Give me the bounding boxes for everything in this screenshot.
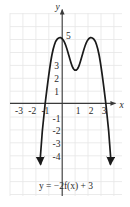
y-tick-label: -3 bbox=[53, 139, 61, 149]
y-tick-label: 2 bbox=[54, 74, 59, 84]
x-tick-label: -2 bbox=[28, 106, 36, 116]
y-axis-label: y bbox=[55, 2, 61, 12]
y-tick-labels-negative: -1 -2 -3 -4 bbox=[53, 114, 61, 163]
x-tick-label: 2 bbox=[89, 106, 94, 116]
y-tick-label: 3 bbox=[54, 61, 59, 71]
y-tick-label: 1 bbox=[54, 87, 59, 97]
x-axis-label: x bbox=[119, 100, 125, 110]
axis-lines bbox=[10, 10, 116, 197]
y-tick-label: -2 bbox=[53, 126, 61, 136]
x-tick-labels: -3 -2 -1 1 2 3 bbox=[15, 106, 107, 116]
y-tick-label: -4 bbox=[53, 152, 61, 162]
equation-annotation: y = −2f(x) + 3 bbox=[39, 181, 93, 192]
y-tick-label: -1 bbox=[53, 114, 61, 124]
x-tick-label: 1 bbox=[76, 106, 81, 116]
graph-figure: x y -3 -2 -1 1 2 3 1 2 3 5 -1 -2 -3 -4 bbox=[0, 0, 130, 207]
x-tick-label: -3 bbox=[15, 106, 23, 116]
graph-canvas: x y -3 -2 -1 1 2 3 1 2 3 5 -1 -2 -3 -4 bbox=[0, 0, 130, 207]
y-tick-label: 5 bbox=[66, 31, 71, 41]
